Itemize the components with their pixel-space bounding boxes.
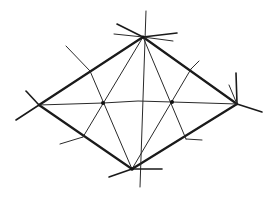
bottom-tick-left — [109, 169, 132, 177]
tick-upper-right — [191, 61, 199, 69]
vertex-ticks — [16, 24, 262, 177]
tick-upper-left — [66, 46, 90, 71]
rhombus-diagram — [0, 0, 276, 198]
right-tick-down — [237, 104, 262, 112]
bottom-vertex — [130, 167, 134, 171]
edge-ticks — [60, 46, 202, 144]
left-tick-down — [16, 105, 39, 120]
top-to-left-node — [83, 37, 143, 137]
right-tick-up — [236, 73, 237, 104]
left-node — [101, 101, 105, 105]
tick-lower-left — [60, 137, 83, 144]
left-tick-up — [26, 91, 39, 105]
right-node — [170, 100, 174, 104]
edge-top-left — [39, 37, 143, 105]
top-tick-right — [143, 33, 177, 37]
top-vertex — [141, 35, 144, 38]
interior-lines — [39, 11, 237, 187]
tick-lower-right — [186, 139, 202, 140]
horizontal-diagonal — [39, 101, 237, 105]
bottom-to-right-node — [132, 69, 191, 169]
